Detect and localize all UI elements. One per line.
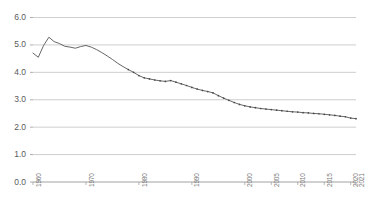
data-point [350, 117, 352, 119]
data-point [355, 118, 357, 120]
data-point [180, 83, 182, 85]
x-axis-tick-label: 2021 [359, 173, 366, 187]
x-axis-tick-label: 1980 [142, 173, 149, 187]
data-point [249, 106, 251, 108]
data-point [339, 115, 341, 117]
data-point [196, 88, 198, 90]
x-axis-tick-label: 2015 [327, 173, 334, 187]
data-point [244, 105, 246, 107]
data-point [307, 112, 309, 114]
data-point [154, 79, 156, 81]
data-point [143, 77, 145, 79]
data-point [165, 81, 167, 83]
x-axis-tick-label: 1970 [89, 173, 96, 187]
data-point [170, 80, 172, 82]
y-axis-tick-label: 4.0 [0, 68, 26, 77]
y-axis-tick-label: 2.0 [0, 123, 26, 132]
x-axis-tick-label: 2000 [247, 173, 254, 187]
data-point [286, 110, 288, 112]
data-point [186, 85, 188, 87]
y-axis-tick-label: 0.0 [0, 178, 26, 187]
data-point [255, 107, 257, 109]
data-point [302, 112, 304, 114]
data-point [265, 108, 267, 110]
data-point-markers [127, 69, 356, 120]
data-point [149, 78, 151, 80]
data-point [239, 104, 241, 106]
data-point [276, 109, 278, 111]
y-axis-tick-label: 5.0 [0, 40, 26, 49]
x-axis-tick-label: 1990 [194, 173, 201, 187]
data-point [297, 111, 299, 113]
data-point [345, 116, 347, 118]
data-point [281, 110, 283, 112]
x-axis-tick-label: 2005 [274, 173, 281, 187]
data-point [133, 71, 135, 73]
chart-plot-area [0, 0, 370, 209]
data-point [334, 115, 336, 117]
data-point [138, 75, 140, 77]
gridlines [30, 18, 356, 183]
data-point [217, 95, 219, 97]
data-point [313, 113, 315, 115]
data-point [292, 111, 294, 113]
y-axis-tick-label: 6.0 [0, 13, 26, 22]
data-series-line [33, 37, 356, 118]
data-point [233, 102, 235, 104]
data-point [270, 109, 272, 111]
data-point [212, 92, 214, 94]
y-axis-tick-label: 1.0 [0, 150, 26, 159]
data-point [159, 80, 161, 82]
data-point [191, 87, 193, 89]
x-axis-tick-label: 1960 [36, 173, 43, 187]
data-point [223, 97, 225, 99]
y-axis-tick-label: 3.0 [0, 95, 26, 104]
data-point [175, 81, 177, 83]
line-chart: 0.01.02.03.04.05.06.0 196019701980199020… [0, 0, 370, 209]
data-point [228, 99, 230, 101]
data-point [318, 113, 320, 115]
data-point [207, 91, 209, 93]
x-axis-tick-label: 2010 [300, 173, 307, 187]
data-point [329, 114, 331, 116]
data-point [202, 90, 204, 92]
data-point [323, 113, 325, 115]
data-point [127, 69, 129, 71]
data-point [260, 108, 262, 110]
